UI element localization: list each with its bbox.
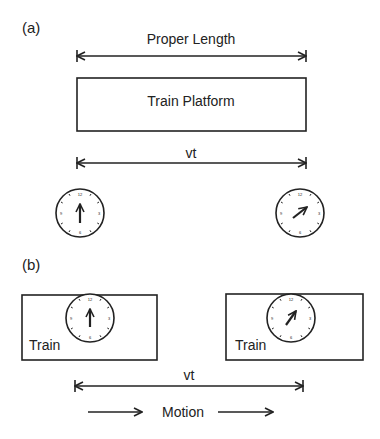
clock-icon-left-b	[66, 294, 114, 342]
clock-icon-right-b	[267, 294, 315, 342]
relativity-diagram: 12 3 6 9 (a) Proper Length Train Platfor…	[0, 0, 380, 439]
train-label-right: Train	[235, 337, 266, 353]
proper-length-arrow	[77, 50, 306, 62]
proper-length-label: Proper Length	[147, 31, 236, 47]
motion-label: Motion	[162, 404, 204, 420]
distance-label-a: vt	[186, 145, 197, 161]
train-platform-label: Train Platform	[147, 93, 234, 109]
panel-b-label: (b)	[22, 256, 40, 273]
clock-icon-left-a	[56, 189, 104, 237]
clock-icon-right-a	[276, 189, 324, 237]
panel-a-label: (a)	[22, 19, 40, 36]
train-label-left: Train	[29, 337, 60, 353]
distance-label-b: vt	[184, 367, 195, 383]
